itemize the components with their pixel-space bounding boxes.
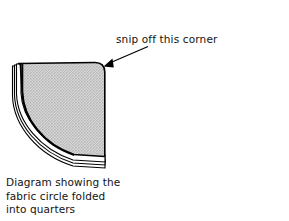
- caption-line-3: into quarters: [6, 203, 156, 217]
- leader-arrow-shaft: [109, 47, 149, 64]
- leader-arrow: [104, 47, 149, 68]
- caption-line-2: fabric circle folded: [6, 190, 156, 204]
- diagram-figure: snip off this corner Diagram showing the…: [0, 0, 289, 221]
- figure-caption: Diagram showing the fabric circle folded…: [6, 176, 156, 217]
- fabric-quarter-top-ply: [19, 63, 105, 157]
- caption-line-1: Diagram showing the: [6, 176, 156, 190]
- leader-arrow-head: [104, 59, 114, 68]
- snip-corner-annotation: snip off this corner: [116, 34, 217, 46]
